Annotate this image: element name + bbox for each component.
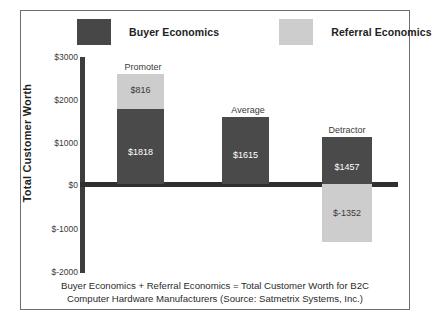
bar-category-label-average: Average [200, 105, 296, 115]
bar-value-average-buyer: $1615 [222, 150, 269, 160]
bar-group-detractor: Detractor $1457 $-1352 [322, 0, 372, 325]
bar-value-detractor-referral: $-1352 [322, 208, 372, 218]
bar-segment-promoter-referral[interactable]: $816 [117, 74, 164, 109]
bar-value-promoter-referral: $816 [117, 85, 164, 95]
bar-segment-average-buyer[interactable]: $1615 [222, 117, 269, 184]
y-axis-spine [80, 57, 85, 273]
bar-segment-detractor-buyer[interactable]: $1457 [322, 137, 372, 184]
bar-group-average: Average $1615 [222, 0, 269, 325]
caption-line-1: Buyer Economics + Referral Economics = T… [32, 279, 398, 292]
bar-group-promoter: Promoter $816 $1818 [117, 0, 164, 325]
bar-category-label-detractor: Detractor [299, 125, 395, 135]
caption-line-2: Computer Hardware Manufacturers (Source:… [32, 292, 398, 305]
figure-caption: Buyer Economics + Referral Economics = T… [32, 279, 398, 305]
bar-value-promoter-buyer: $1818 [117, 147, 164, 157]
bar-category-label-promoter: Promoter [95, 62, 191, 72]
bar-value-detractor-buyer: $1457 [322, 162, 372, 172]
bar-segment-promoter-buyer[interactable]: $1818 [117, 109, 164, 184]
bar-segment-detractor-referral[interactable]: $-1352 [322, 184, 372, 242]
